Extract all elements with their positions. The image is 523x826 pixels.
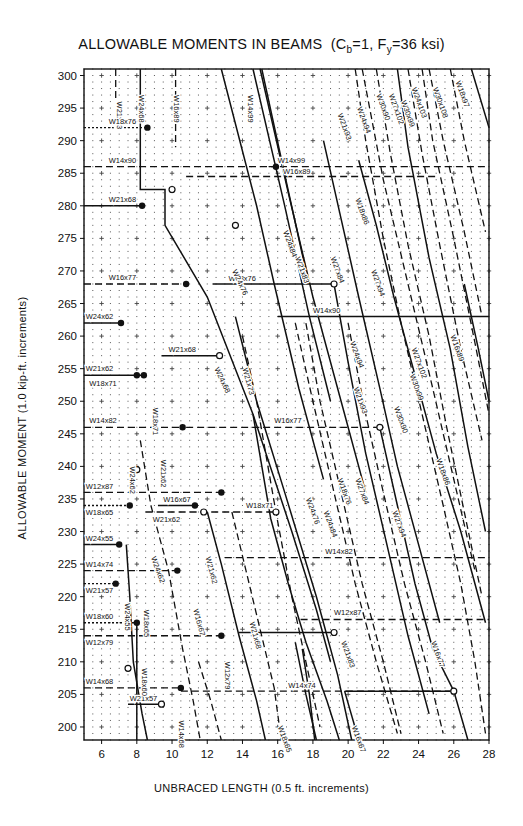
section-label: W18x60 <box>86 612 114 621</box>
open-marker <box>273 509 279 515</box>
section-label: W18x76 <box>336 477 354 506</box>
section-label: W12x87 <box>86 482 114 491</box>
y-tick-label: 225 <box>58 558 77 570</box>
open-marker <box>158 701 164 707</box>
x-tick-label: 24 <box>412 748 425 760</box>
section-label: W24x62 <box>149 555 167 584</box>
y-axis-label: ALLOWABLE MOMENT (1.0 kip-ft. increments… <box>16 288 28 548</box>
section-label: W14x99 <box>278 156 306 165</box>
filled-marker <box>218 489 224 495</box>
section-label: W16x77 <box>429 640 447 669</box>
y-tick-label: 270 <box>58 265 77 277</box>
x-tick-label: 12 <box>201 748 214 760</box>
x-tick-label: 6 <box>98 748 104 760</box>
open-marker <box>451 688 457 694</box>
section-label: W18x71 <box>89 379 117 388</box>
section-label: W21x68 <box>248 621 264 650</box>
filled-marker <box>179 424 185 430</box>
section-label: W24x84 <box>322 510 340 539</box>
section-label: W30x90 <box>392 405 410 434</box>
section-label: W30x108 <box>431 86 450 119</box>
section-label: W12x79 <box>86 638 114 647</box>
section-label: W14x82 <box>325 547 353 556</box>
filled-marker <box>116 541 122 547</box>
section-label: W24x84 <box>281 229 299 258</box>
x-tick-label: 16 <box>271 748 284 760</box>
open-marker <box>125 665 131 671</box>
filled-marker <box>192 502 198 508</box>
beam-curve <box>243 336 321 727</box>
section-label: W14x74 <box>288 681 316 690</box>
section-label: W16x67 <box>163 495 191 504</box>
section-label: W14x82 <box>89 416 117 425</box>
chart-plot: 2002052102152202252302352402452502552602… <box>0 0 523 826</box>
section-label: W16x89 <box>172 95 181 123</box>
section-label: W24x76 <box>304 497 322 526</box>
y-tick-label: 275 <box>58 232 77 244</box>
x-tick-label: 14 <box>236 748 249 760</box>
section-label: W27x84 <box>329 256 347 285</box>
section-label: W14x99 <box>246 95 255 123</box>
section-label: W12x87 <box>334 608 362 617</box>
section-label: W24x68 <box>137 95 146 123</box>
section-label: W24x55 <box>86 534 114 543</box>
section-label: W24x62 <box>86 312 114 321</box>
y-tick-label: 290 <box>58 135 77 147</box>
section-label: W24x62 <box>128 466 137 494</box>
section-label: W27x94 <box>369 269 387 298</box>
x-tick-label: 8 <box>134 748 140 760</box>
beam-curve <box>295 323 397 733</box>
filled-marker <box>112 580 118 586</box>
y-tick-label: 300 <box>58 70 77 82</box>
section-label: W18x86 <box>353 197 371 226</box>
filled-marker <box>118 320 124 326</box>
section-label: W24x94 <box>348 340 366 369</box>
section-label: W21x83 <box>339 640 357 669</box>
section-label: W21x83 <box>293 256 311 285</box>
filled-marker <box>174 567 180 573</box>
beam-curve <box>306 323 401 733</box>
beam-curve <box>471 69 489 128</box>
section-label: W14x90 <box>313 306 341 315</box>
y-tick-label: 200 <box>58 721 77 733</box>
open-marker <box>331 281 337 287</box>
open-marker <box>331 630 337 636</box>
section-label: W18x65 <box>86 508 114 517</box>
x-tick-label: 10 <box>166 748 179 760</box>
y-tick-label: 255 <box>58 363 77 375</box>
section-label: W21x68 <box>169 345 197 354</box>
x-tick-label: 18 <box>307 748 320 760</box>
x-tick-label: 28 <box>483 748 496 760</box>
y-tick-label: 230 <box>58 526 77 538</box>
section-label: W18x71 <box>246 501 274 510</box>
x-tick-label: 26 <box>447 748 460 760</box>
y-tick-label: 235 <box>58 493 77 505</box>
section-label: W21x62 <box>86 364 114 373</box>
section-label: W18x76 <box>109 117 137 126</box>
beam-curve <box>348 323 443 733</box>
y-tick-label: 250 <box>58 395 77 407</box>
filled-marker <box>218 633 224 639</box>
y-tick-label: 240 <box>58 460 77 472</box>
filled-marker <box>139 203 145 209</box>
open-marker <box>232 222 238 228</box>
section-label: W21x68 <box>109 195 137 204</box>
section-label: W14x68 <box>86 677 114 686</box>
open-marker <box>377 424 383 430</box>
section-label: W16x89 <box>448 334 466 363</box>
section-label: W16x77 <box>109 273 137 282</box>
section-label: W24x55 <box>123 603 132 631</box>
y-tick-label: 280 <box>58 200 77 212</box>
section-label: W21x62 <box>153 515 181 524</box>
filled-marker <box>183 281 189 287</box>
beam-curve <box>422 69 489 414</box>
y-tick-label: 245 <box>58 428 77 440</box>
y-tick-label: 215 <box>58 623 77 635</box>
y-tick-label: 285 <box>58 167 77 179</box>
beam-curve <box>464 284 489 401</box>
y-tick-label: 295 <box>58 102 77 114</box>
section-label: W18x97 <box>454 80 472 109</box>
filled-marker <box>127 502 133 508</box>
section-label: W18x71 <box>151 408 160 436</box>
section-label: W21x62 <box>159 460 168 488</box>
